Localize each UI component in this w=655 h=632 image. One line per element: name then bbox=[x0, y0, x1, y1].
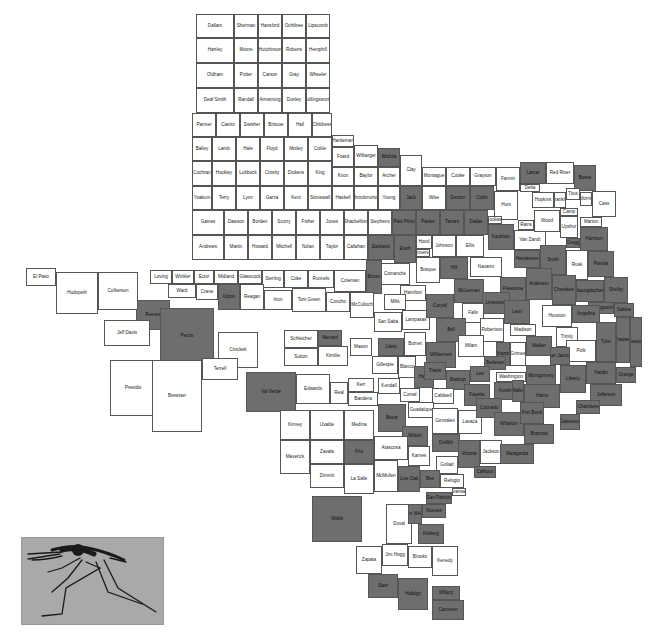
county-gillespie: Gillespie bbox=[372, 356, 398, 374]
county-tom-green: Tom Green bbox=[292, 288, 326, 312]
county-martin: Martin bbox=[224, 235, 248, 260]
county-fisher: Fisher bbox=[296, 210, 320, 235]
county-castro: Castro bbox=[216, 113, 240, 137]
county-concho: Concho bbox=[326, 292, 350, 312]
county-newton: Newton bbox=[630, 317, 642, 367]
county-red-river: Red River bbox=[546, 162, 574, 184]
county-hardin: Hardin bbox=[586, 362, 616, 384]
county-oldham: Oldham bbox=[196, 63, 234, 88]
county-kerr: Kerr bbox=[348, 378, 374, 392]
county-sutton: Sutton bbox=[284, 348, 318, 366]
county-hutchinson: Hutchinson bbox=[258, 38, 282, 63]
county-hockley: Hockley bbox=[212, 161, 236, 186]
county-dickens: Dickens bbox=[284, 161, 308, 186]
county-kendall: Kendall bbox=[378, 378, 400, 394]
county-deaf-smith: Deaf Smith bbox=[196, 88, 234, 113]
county-young: Young bbox=[378, 186, 400, 210]
county-palo-pinto: Palo Pinto bbox=[392, 210, 416, 235]
county-johnson: Johnson bbox=[432, 235, 456, 257]
county-potter: Potter bbox=[234, 63, 258, 88]
county-victoria: Victoria bbox=[458, 440, 480, 468]
county-sterling: Sterling bbox=[262, 270, 284, 288]
county-knox: Knox bbox=[332, 167, 354, 186]
county-val-verde: Val Verde bbox=[246, 372, 296, 412]
county-clay: Clay bbox=[400, 155, 422, 186]
county-mitchell: Mitchell bbox=[272, 235, 296, 260]
county-san-jacinto: San Jacinto bbox=[550, 347, 570, 365]
county-nacogdoches: Nacogdoches bbox=[576, 280, 604, 302]
county-san-patricio: San Patricio bbox=[426, 492, 452, 504]
county-baylor: Baylor bbox=[354, 167, 378, 186]
county-lipscomb: Lipscomb bbox=[306, 14, 330, 38]
county-hudspeth: Hudspeth bbox=[56, 272, 98, 314]
county-maverick: Maverick bbox=[280, 440, 310, 474]
county-upton: Upton bbox=[218, 284, 240, 310]
county-garza: Garza bbox=[260, 186, 284, 210]
county-waller: Waller bbox=[512, 380, 524, 402]
county-gray: Gray bbox=[282, 63, 306, 88]
county-harrison: Harrison bbox=[580, 227, 608, 251]
county-lamb: Lamb bbox=[212, 137, 236, 161]
county-rockwall: Rockwall bbox=[488, 216, 502, 224]
county-guadalupe: Guadalupe bbox=[408, 402, 434, 418]
county-gonzales: Gonzales bbox=[432, 408, 458, 434]
county-lynn: Lynn bbox=[236, 186, 260, 210]
county-bandera: Bandera bbox=[348, 392, 378, 406]
county-hardeman: Hardeman bbox=[332, 135, 354, 147]
county-hidalgo: Hidalgo bbox=[398, 578, 428, 610]
mosquito-inset-image bbox=[21, 537, 164, 625]
county-orange: Orange bbox=[616, 367, 636, 383]
county-angelina: Angelina bbox=[572, 305, 600, 323]
county-grimes: Grimes bbox=[510, 342, 526, 366]
county-wheeler: Wheeler bbox=[306, 63, 330, 88]
county-stonewall: Stonewall bbox=[308, 186, 332, 210]
county-real: Real bbox=[330, 382, 348, 404]
county-kleberg: Kleberg bbox=[418, 524, 444, 544]
county-terry: Terry bbox=[212, 186, 236, 210]
county-zapata: Zapata bbox=[356, 546, 382, 574]
county-kimble: Kimble bbox=[318, 346, 348, 366]
county-childress: Childress bbox=[312, 113, 332, 137]
county-fannin: Fannin bbox=[496, 167, 520, 191]
county-coke: Coke bbox=[284, 270, 308, 288]
county-scurry: Scurry bbox=[272, 210, 296, 235]
county-parker: Parker bbox=[416, 210, 440, 235]
county-gregg: Gregg bbox=[566, 238, 580, 248]
county-borden: Borden bbox=[248, 210, 272, 235]
county-foard: Foard bbox=[332, 147, 354, 167]
county-mcculloch: McCulloch bbox=[350, 292, 374, 318]
county-irion: Irion bbox=[264, 290, 292, 310]
county-wise: Wise bbox=[422, 186, 446, 210]
county-montague: Montague bbox=[422, 167, 446, 186]
county-calhoun: Calhoun bbox=[474, 466, 496, 478]
county-leon: Leon bbox=[504, 300, 530, 324]
county-briscoe: Briscoe bbox=[264, 113, 288, 137]
county-glasscock: Glasscock bbox=[238, 270, 262, 284]
county-willacy: Willacy bbox=[432, 586, 460, 600]
county-roberts: Roberts bbox=[282, 38, 306, 63]
county-hopkins: Hopkins bbox=[532, 192, 554, 208]
county-houston: Houston bbox=[542, 305, 572, 327]
county-ochiltree: Ochiltree bbox=[282, 14, 306, 38]
county-atascosa: Atascosa bbox=[374, 436, 408, 460]
county-llano: Llano bbox=[378, 338, 404, 356]
county-lee: Lee bbox=[470, 366, 490, 382]
county-nolan: Nolan bbox=[296, 235, 320, 260]
county-crane: Crane bbox=[196, 284, 218, 300]
county-polk: Polk bbox=[566, 340, 596, 362]
county-hansford: Hansford bbox=[258, 14, 282, 38]
county-starr: Starr bbox=[368, 574, 398, 598]
county-dawson: Dawson bbox=[224, 210, 248, 235]
county-titus: Titus bbox=[566, 188, 580, 200]
county-webb: Webb bbox=[312, 496, 362, 542]
county-grayson: Grayson bbox=[470, 167, 496, 186]
county-ellis: Ellis bbox=[456, 235, 484, 257]
county-camp: Camp bbox=[560, 208, 578, 216]
county-comal: Comal bbox=[400, 388, 420, 402]
county-erath: Erath bbox=[394, 235, 416, 263]
county-hill: Hill bbox=[440, 257, 468, 279]
county-bailey: Bailey bbox=[192, 137, 212, 161]
county-stephens: Stephens bbox=[368, 210, 392, 235]
county-gaines: Gaines bbox=[192, 210, 224, 235]
county-nueces: Nueces bbox=[422, 504, 446, 518]
